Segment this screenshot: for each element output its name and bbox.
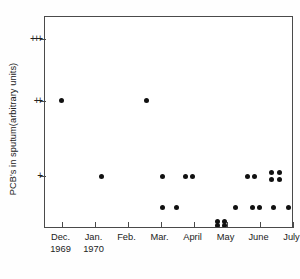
data-point	[257, 205, 262, 210]
x-axis-label-jan: Jan.1970	[83, 232, 104, 255]
data-point	[59, 98, 64, 103]
data-point	[160, 205, 165, 210]
y-tick-label: ++	[34, 96, 41, 106]
data-point	[286, 205, 291, 210]
data-point-layer	[45, 17, 292, 227]
data-point	[277, 177, 282, 182]
x-axis-year-label: 1969	[50, 243, 71, 255]
x-tick-mark	[293, 222, 294, 228]
data-point	[222, 219, 227, 224]
y-tick-label: +	[37, 171, 41, 181]
data-point	[99, 174, 104, 179]
x-axis-month-label: Feb.	[117, 232, 136, 243]
data-point	[190, 174, 195, 179]
y-axis-title: PCB's in sputum(arbitrary units)	[8, 29, 22, 229]
scatter-plot-figure: PCB's in sputum(arbitrary units) ++++++ …	[0, 0, 300, 279]
x-axis-label-july: July	[283, 232, 300, 243]
plot-area: ++++++	[44, 16, 293, 228]
data-point	[183, 174, 188, 179]
x-axis-month-label: July	[283, 232, 300, 243]
x-axis-label-april: April	[183, 232, 202, 243]
x-axis-month-label: June	[248, 232, 268, 243]
x-axis-month-label: April	[183, 232, 202, 243]
data-point	[245, 174, 250, 179]
x-axis-label-may: May	[217, 232, 235, 243]
x-axis-year-label: 1970	[83, 243, 104, 255]
data-point	[250, 205, 255, 210]
x-axis-label-june: June	[248, 232, 268, 243]
data-point	[233, 205, 238, 210]
x-axis-labels: Dec.1969Jan.1970Feb.Mar.AprilMayJuneJuly	[44, 232, 293, 272]
x-axis-month-label: Dec.	[50, 232, 71, 243]
x-axis-month-label: Mar.	[150, 232, 168, 243]
x-axis-month-label: May	[217, 232, 235, 243]
data-point	[144, 98, 149, 103]
data-point	[215, 219, 220, 224]
x-axis-label-dec: Dec.1969	[50, 232, 71, 255]
x-axis-label-feb: Feb.	[117, 232, 136, 243]
data-point	[271, 205, 276, 210]
data-point	[160, 174, 165, 179]
x-axis-label-mar: Mar.	[150, 232, 168, 243]
data-point	[252, 174, 257, 179]
x-axis-month-label: Jan.	[83, 232, 104, 243]
data-point	[269, 170, 274, 175]
data-point	[277, 170, 282, 175]
data-point	[174, 205, 179, 210]
y-tick-label: +++	[30, 34, 41, 44]
data-point	[269, 177, 274, 182]
